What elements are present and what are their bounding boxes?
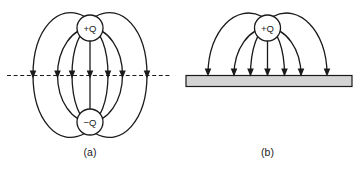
charge-label-negative: −Q xyxy=(84,117,97,128)
arrow-down-icon xyxy=(119,71,126,79)
field-diagram-svg: +Q −Q (a) xyxy=(0,0,363,170)
charge-label-positive: +Q xyxy=(261,23,274,34)
charge-label-positive: +Q xyxy=(84,23,97,34)
arrow-down-icon xyxy=(144,71,151,79)
arrow-down-icon xyxy=(69,71,76,79)
arrow-down-icon xyxy=(105,71,112,79)
arrow-down-icon xyxy=(54,71,61,79)
panel-b: +Q (b) xyxy=(186,13,352,158)
conductor-plane xyxy=(186,76,352,87)
panel-a-label: (a) xyxy=(84,146,97,158)
panel-a: +Q −Q (a) xyxy=(7,13,172,158)
arrow-down-icon xyxy=(87,71,94,79)
arrow-down-icon xyxy=(30,71,37,79)
panel-b-label: (b) xyxy=(261,146,274,158)
figure-canvas: +Q −Q (a) xyxy=(0,0,363,170)
